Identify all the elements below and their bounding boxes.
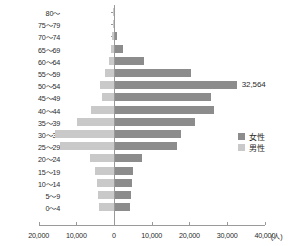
bar-female-16 [114,203,130,211]
y-axis-label-13: 15～19 [0,167,66,177]
x-tick-2 [114,222,115,225]
bar-female-13 [114,167,133,175]
x-tick-label-5: 30,000 [207,231,247,240]
x-tick-label-4: 20,000 [169,231,209,240]
y-axis-label-15: 5～9 [0,191,66,201]
x-tick-1 [76,222,77,225]
legend-label-0: 女性 [249,131,265,142]
x-axis-line [39,225,265,226]
bar-male-11 [60,142,114,150]
y-axis-label-5: 55～59 [0,69,66,79]
y-axis-label-7: 45～49 [0,93,66,103]
y-axis-label-4: 60～64 [0,57,66,67]
x-tick-label-0: 20,000 [19,231,59,240]
bar-male-15 [98,191,114,199]
y-axis-label-16: 0～4 [0,203,66,213]
y-axis-label-8: 40～44 [0,106,66,116]
bar-male-10 [55,130,114,138]
bar-female-10 [114,130,181,138]
y-axis-label-9: 35～39 [0,118,66,128]
bar-female-11 [114,142,177,150]
bar-male-9 [77,118,114,126]
bar-male-8 [91,106,114,114]
bar-male-16 [99,203,114,211]
bar-male-7 [102,93,114,101]
population-pyramid-chart: 80～75～7970～7465～6960～6455～5950～5445～4940… [0,0,303,246]
y-axis-label-6: 50～54 [0,81,66,91]
plot-area: 80～75～7970～7465～6960～6455～5950～5445～4940… [0,0,303,246]
x-axis-unit-label: (人) [271,231,283,241]
data-label-0: 32,564 [242,80,266,89]
bar-female-3 [114,45,123,53]
y-axis-label-12: 20～24 [0,154,66,164]
legend-item-0: 女性 [238,131,265,142]
bar-male-6 [100,81,114,89]
bar-female-8 [114,106,214,114]
bar-male-12 [90,154,114,162]
y-axis-label-14: 10～14 [0,179,66,189]
x-tick-label-2: 0 [94,231,134,240]
zero-axis-line [114,5,115,225]
y-axis-label-3: 65～69 [0,45,66,55]
bar-female-9 [114,118,195,126]
y-axis-label-2: 70～74 [0,32,66,42]
y-axis-label-1: 75～79 [0,20,66,30]
x-tick-label-3: 10,000 [132,231,172,240]
y-axis-label-11: 25～29 [0,142,66,152]
bar-female-15 [114,191,131,199]
legend-label-1: 男性 [249,142,265,153]
bar-female-12 [114,154,142,162]
legend-swatch-icon-0 [238,133,245,140]
bar-male-14 [97,179,114,187]
x-tick-0 [39,222,40,225]
y-axis-category-labels: 80～75～7970～7465～6960～6455～5950～5445～4940… [0,0,66,246]
y-axis-label-0: 80～ [0,8,66,18]
bar-female-5 [114,69,191,77]
x-tick-4 [189,222,190,225]
legend-swatch-icon-1 [238,144,245,151]
bar-female-7 [114,93,211,101]
legend-item-1: 男性 [238,142,265,153]
x-tick-3 [152,222,153,225]
bar-female-6 [114,81,237,89]
bar-male-13 [95,167,114,175]
bar-female-14 [114,179,132,187]
bar-female-4 [114,57,144,65]
x-tick-6 [265,222,266,225]
x-tick-label-1: 10,000 [56,231,96,240]
bar-male-5 [105,69,114,77]
x-tick-5 [227,222,228,225]
